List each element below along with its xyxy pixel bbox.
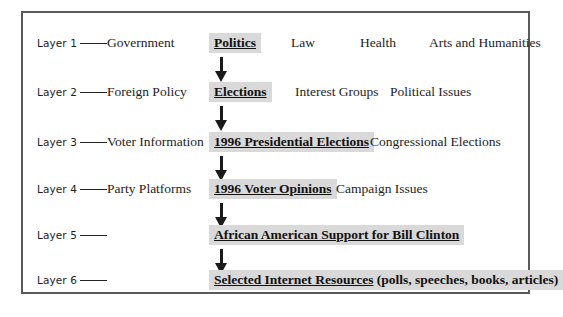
term-political-issues[interactable]: Political Issues: [390, 82, 471, 102]
layer-rule-1: [80, 43, 107, 44]
layer-subtitle-4: Party Platforms: [107, 179, 191, 199]
term-congressional-elections[interactable]: Congressional Elections: [370, 132, 501, 152]
node-african-american-support-underlined: African American Support for Bill Clinto…: [214, 227, 459, 242]
layer-row-3: Layer 3 Voter Information 1996 President…: [23, 132, 528, 152]
arrow-head: [215, 120, 227, 131]
node-1996-presidential-elections-underlined: 1996 Presidential Elections: [214, 134, 369, 149]
diagram-frame: Layer 1 Government Politics Law Health A…: [21, 11, 530, 294]
node-1996-voter-opinions-underlined: 1996 Voter Opinions: [214, 181, 332, 196]
term-interest-groups[interactable]: Interest Groups: [295, 82, 379, 102]
node-1996-voter-opinions[interactable]: 1996 Voter Opinions: [209, 179, 337, 199]
layer-rule-6: [80, 280, 107, 281]
node-selected-internet-resources-plain: (polls, speeches, books, articles): [373, 272, 558, 287]
layer-rule-4: [80, 189, 107, 190]
layer-subtitle-3: Voter Information: [107, 132, 204, 152]
layer-subtitle-1: Government: [107, 33, 174, 53]
layer-row-5: Layer 5 African American Support for Bil…: [23, 225, 528, 245]
layer-row-2: Layer 2 Foreign Policy Elections Interes…: [23, 82, 528, 102]
term-arts-and-humanities[interactable]: Arts and Humanities: [429, 33, 541, 53]
layer-row-1: Layer 1 Government Politics Law Health A…: [23, 33, 528, 53]
node-african-american-support-for-bill-clinton[interactable]: African American Support for Bill Clinto…: [209, 225, 464, 245]
layer-tag-5: Layer 5: [37, 225, 77, 245]
term-health[interactable]: Health: [360, 33, 396, 53]
term-campaign-issues[interactable]: Campaign Issues: [336, 179, 428, 199]
node-elections-underlined: Elections: [214, 84, 267, 99]
layer-rule-2: [80, 92, 107, 93]
node-selected-internet-resources[interactable]: Selected Internet Resources (polls, spee…: [209, 270, 563, 290]
term-law[interactable]: Law: [291, 33, 315, 53]
arrow-layer1-to-layer2: [215, 57, 228, 83]
layer-rule-5: [80, 235, 107, 236]
layer-row-4: Layer 4 Party Platforms 1996 Voter Opini…: [23, 179, 528, 199]
layer-rule-3: [80, 142, 107, 143]
layer-tag-2: Layer 2: [37, 82, 77, 102]
node-1996-presidential-elections[interactable]: 1996 Presidential Elections: [209, 132, 374, 152]
node-selected-internet-resources-underlined: Selected Internet Resources: [214, 272, 373, 287]
arrow-layer2-to-layer3: [215, 106, 228, 132]
layer-row-6: Layer 6 Selected Internet Resources (pol…: [23, 270, 528, 290]
arrow-head: [215, 71, 227, 82]
layer-tag-4: Layer 4: [37, 179, 77, 199]
node-elections[interactable]: Elections: [209, 82, 272, 102]
layer-tag-3: Layer 3: [37, 132, 77, 152]
layer-tag-6: Layer 6: [37, 270, 77, 290]
layer-tag-1: Layer 1: [37, 33, 77, 53]
node-politics[interactable]: Politics: [209, 33, 261, 53]
layer-subtitle-2: Foreign Policy: [107, 82, 187, 102]
node-politics-underlined: Politics: [214, 35, 256, 50]
